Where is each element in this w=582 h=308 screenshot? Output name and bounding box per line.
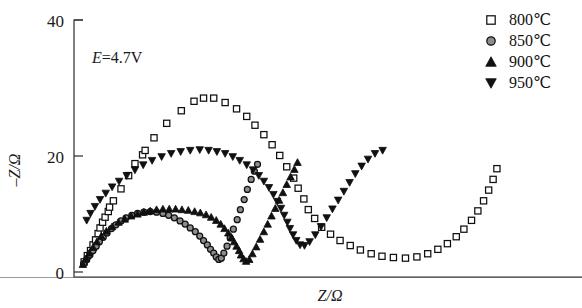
chart-legend: 800℃850℃900℃950℃ [486,11,551,91]
data-point [475,208,481,214]
data-point [379,253,385,259]
data-point [233,106,239,112]
legend-label: 950℃ [509,74,551,91]
data-point [347,242,353,248]
data-point [151,135,157,141]
data-point [158,154,166,161]
data-point [255,161,261,167]
data-point [283,181,291,188]
data-point [132,161,138,167]
data-point [222,99,228,105]
data-point [252,243,260,250]
data-point [178,206,186,213]
data-point [115,178,123,185]
data-point [87,210,95,217]
series-900c [79,159,301,268]
data-point [453,234,459,240]
data-point [480,198,486,204]
legend-item-850c[interactable]: 850℃ [487,32,551,49]
data-point [352,171,360,178]
data-point [270,191,278,198]
data-point [249,250,257,257]
data-point [244,186,250,192]
data-point [221,250,227,256]
data-point [230,226,236,232]
data-point [131,167,139,174]
data-point [368,251,374,257]
data-point [205,147,213,154]
data-point [167,150,175,157]
legend-item-900c[interactable]: 900℃ [486,53,551,70]
data-point [329,206,337,213]
data-point [256,235,264,242]
data-point [334,197,342,204]
legend-marker-icon [486,79,497,89]
data-point [312,232,320,239]
data-point [244,113,250,119]
data-point [139,162,147,169]
data-point [171,215,177,221]
data-point [337,237,343,243]
data-point [490,176,496,182]
data-point [323,215,331,222]
data-point [425,251,431,257]
data-point [83,217,91,224]
data-point [414,254,420,260]
data-point [444,241,450,247]
legend-label: 850℃ [509,32,551,49]
data-point [277,152,283,158]
legend-marker-icon [486,57,497,67]
data-point [241,197,247,203]
data-point [102,190,110,197]
data-point [166,205,174,212]
data-point [91,203,99,210]
data-point [142,147,148,153]
ytick-label-20: 20 [47,148,64,167]
legend-marker-icon [487,37,495,45]
data-point [486,187,492,193]
data-point [494,166,500,172]
data-point [402,255,408,261]
chart-svg: 40 20 0 –Z/Ω Z/Ω E=4.7V 800℃850℃900℃950℃ [0,0,582,308]
data-point [371,150,379,157]
annotation-value: =4.7V [102,49,143,66]
data-point [268,212,276,219]
legend-item-950c[interactable]: 950℃ [486,74,551,91]
data-point [346,179,354,186]
series-950c [83,147,386,250]
data-point [390,254,396,260]
x-axis-title: Z/Ω [318,287,343,304]
data-point [379,147,387,154]
annotation-potential: E=4.7V [91,49,143,66]
data-point [191,208,199,215]
ytick-label-40: 40 [47,12,64,31]
data-point [252,122,258,128]
data-point [236,157,244,164]
series-layer [79,95,500,267]
data-point [279,189,287,196]
data-point [284,164,290,170]
data-point [213,149,221,156]
data-point [186,147,194,154]
legend-marker-icon [487,16,495,24]
data-point [159,205,167,212]
data-point [286,225,294,232]
data-point [280,212,288,219]
legend-item-800c[interactable]: 800℃ [487,11,551,28]
data-point [108,184,116,191]
data-point [340,188,348,195]
data-point [305,207,311,213]
data-point [172,205,180,212]
data-point [166,212,172,218]
data-point [191,98,197,104]
ytick-label-0: 0 [56,264,65,283]
data-point [200,95,206,101]
data-point [327,231,333,237]
data-point [294,159,302,166]
data-point [358,163,366,170]
data-point [295,185,301,191]
data-point [164,120,170,126]
data-point [106,204,112,210]
data-point [118,186,124,192]
data-point [185,207,193,214]
